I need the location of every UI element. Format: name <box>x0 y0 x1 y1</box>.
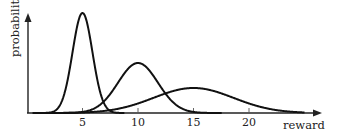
y-axis <box>25 13 32 113</box>
distribution-1-curve <box>41 13 125 113</box>
x-tick-label: 10 <box>131 116 145 129</box>
y-axis-label: probability <box>8 0 22 57</box>
x-axis-label: reward <box>283 118 326 132</box>
x-tick-label: 5 <box>79 116 86 129</box>
reward-distribution-chart: 5101520 reward probability <box>0 0 344 132</box>
curves <box>33 13 305 113</box>
y-axis-arrow-icon <box>25 13 32 22</box>
x-tick-label: 20 <box>242 116 256 129</box>
x-axis-arrow-icon <box>313 110 322 117</box>
chart-svg: 5101520 reward probability <box>0 0 344 132</box>
distribution-3-curve <box>33 88 305 113</box>
x-tick-label: 15 <box>187 116 201 129</box>
